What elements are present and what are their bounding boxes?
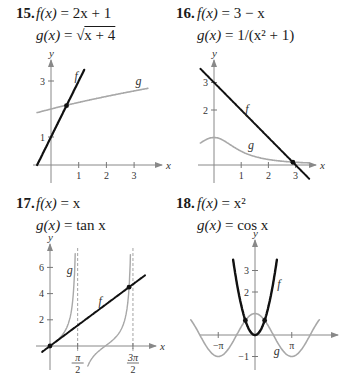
y-tick-label: 6 bbox=[39, 262, 44, 273]
y-axis-label: y bbox=[211, 47, 217, 59]
intersection-point bbox=[127, 285, 132, 290]
intersection-point bbox=[64, 103, 69, 108]
intersection-point bbox=[290, 160, 295, 165]
series-g-label: g bbox=[248, 138, 254, 152]
series-g-label: g bbox=[274, 344, 280, 358]
y-tick-label: 3 bbox=[203, 77, 208, 88]
y-tick-label: 2 bbox=[39, 314, 44, 325]
intersection-point bbox=[243, 318, 248, 323]
y-tick-label: 4 bbox=[39, 288, 44, 299]
y-tick-label: 1 bbox=[40, 132, 45, 143]
intersection-point bbox=[48, 344, 53, 349]
x-tick-label: 3 bbox=[132, 170, 137, 181]
series-f-label: f bbox=[245, 102, 250, 116]
y-tick-label: 2 bbox=[244, 287, 249, 298]
x-tick-label-numerator: 3π bbox=[127, 352, 139, 363]
x-tick-label-numerator: π bbox=[75, 352, 81, 363]
x-tick-label: 1 bbox=[76, 170, 81, 181]
x-tick-label: 2 bbox=[266, 170, 271, 181]
x-tick-label: 3 bbox=[293, 170, 298, 181]
y-tick-label: 2 bbox=[203, 105, 208, 116]
y-axis-label: y bbox=[252, 227, 258, 239]
graph-17: xyπ23π2246gf bbox=[36, 231, 165, 375]
x-tick-label: 1 bbox=[239, 170, 244, 181]
y-tick-label: −1 bbox=[238, 351, 249, 362]
graph-18: xy−ππ−123gf bbox=[191, 227, 340, 370]
y-axis-label: y bbox=[47, 231, 53, 243]
graph-16: xy12323gf bbox=[198, 47, 325, 183]
x-tick-label: π bbox=[289, 340, 294, 351]
x-tick-label-denominator: 2 bbox=[130, 364, 135, 375]
graphs-canvas: xy12313gfxy12323gfxyπ23π2246gfxy−ππ−123g… bbox=[0, 0, 340, 382]
y-axis-label: y bbox=[48, 47, 54, 59]
y-tick-label: 3 bbox=[40, 76, 45, 87]
x-axis-label: x bbox=[319, 159, 325, 171]
series-g-label: g bbox=[67, 263, 73, 277]
series-g-label: g bbox=[135, 74, 141, 88]
series-f-label: f bbox=[277, 277, 282, 291]
x-axis-label: x bbox=[159, 340, 165, 352]
series-g-curve bbox=[37, 88, 148, 112]
y-tick-label: 3 bbox=[244, 265, 249, 276]
series-g-curve bbox=[88, 255, 131, 366]
graph-15: xy12313gf bbox=[33, 47, 171, 183]
x-tick-label-denominator: 2 bbox=[75, 364, 80, 375]
x-tick-label: −π bbox=[213, 340, 224, 351]
x-tick-label: 2 bbox=[104, 170, 109, 181]
intersection-point bbox=[262, 318, 267, 323]
x-axis-label: x bbox=[165, 159, 171, 171]
series-g-curve bbox=[200, 138, 309, 163]
